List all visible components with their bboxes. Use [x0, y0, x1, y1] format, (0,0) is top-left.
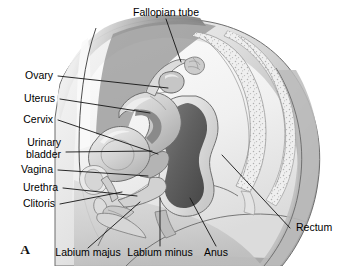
label-fallopian-tube: Fallopian tube — [133, 6, 199, 18]
label-uterus: Uterus — [24, 92, 55, 104]
label-vagina: Vagina — [21, 163, 53, 175]
label-labium-minus: Labium minus — [127, 246, 192, 258]
label-ovary: Ovary — [25, 69, 54, 81]
anatomy-figure-panel: Fallopian tube Ovary Uterus Cervix Urina… — [0, 0, 343, 266]
label-urethra: Urethra — [23, 181, 58, 193]
label-labium-majus: Labium majus — [55, 246, 120, 258]
label-anus: Anus — [204, 246, 228, 258]
label-rectum: Rectum — [296, 221, 332, 233]
label-urinary-bladder-line2: bladder — [26, 148, 62, 160]
label-clitoris: Clitoris — [23, 197, 55, 209]
label-urinary-bladder-line1: Urinary — [27, 136, 62, 148]
female-pelvis-sagittal-diagram: Fallopian tube Ovary Uterus Cervix Urina… — [0, 0, 343, 266]
label-cervix: Cervix — [23, 113, 54, 125]
panel-letter: A — [20, 242, 30, 257]
